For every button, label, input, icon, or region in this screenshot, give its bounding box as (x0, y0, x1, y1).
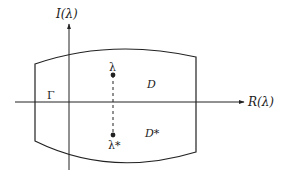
point-lambda-star (111, 133, 116, 138)
vertical-axis-label: I(λ) (55, 7, 78, 21)
complex-plane-diagram: I(λ) R(λ) Γ D D* λ λ* (0, 0, 283, 178)
region-upper-label: D (146, 78, 156, 91)
point-lambda-star-label: λ* (108, 139, 121, 152)
horizontal-axis-label: R(λ) (247, 95, 274, 109)
point-lambda-label: λ (109, 61, 116, 74)
region-lower-label: D* (144, 127, 160, 140)
boundary-label: Γ (47, 89, 55, 102)
